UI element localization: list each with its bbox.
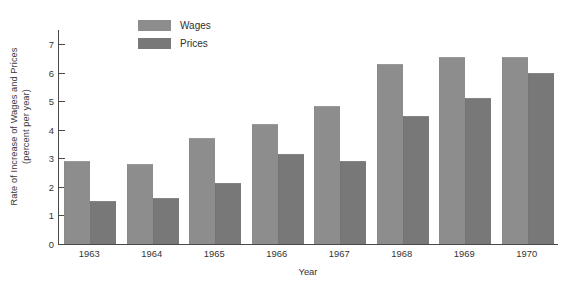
legend-label-prices: Prices bbox=[180, 38, 208, 49]
bar-wages-1965 bbox=[189, 138, 215, 244]
x-tick-label-1967: 1967 bbox=[308, 248, 371, 259]
bar-prices-1966 bbox=[278, 154, 304, 244]
y-tick-label-7: 7 bbox=[38, 39, 54, 50]
bar-prices-1968 bbox=[403, 116, 429, 244]
bar-wages-1963 bbox=[64, 161, 90, 244]
y-axis-tick-labels: 01234567 bbox=[36, 30, 54, 245]
x-tick-label-1964: 1964 bbox=[121, 248, 184, 259]
legend: Wages Prices bbox=[138, 18, 258, 54]
bar-wages-1970 bbox=[502, 57, 528, 244]
bar-wages-1967 bbox=[314, 106, 340, 244]
bar-group-1964 bbox=[127, 30, 179, 244]
x-tick-label-1968: 1968 bbox=[371, 248, 434, 259]
x-tick-label-1963: 1963 bbox=[58, 248, 121, 259]
bar-wages-1964 bbox=[127, 164, 153, 244]
bar-prices-1964 bbox=[153, 198, 179, 244]
bar-wages-1966 bbox=[252, 124, 278, 244]
bar-prices-1969 bbox=[465, 98, 491, 244]
bar-wages-1968 bbox=[377, 64, 403, 244]
bar-prices-1967 bbox=[340, 161, 366, 244]
y-tick-label-2: 2 bbox=[38, 181, 54, 192]
x-tick-label-1966: 1966 bbox=[246, 248, 309, 259]
bar-groups bbox=[59, 30, 558, 245]
legend-swatch-wages-icon bbox=[138, 20, 171, 31]
legend-item-wages: Wages bbox=[138, 18, 258, 33]
y-axis-title: Rate of Increase of Wages and Prices (pe… bbox=[0, 0, 40, 252]
bar-prices-1963 bbox=[90, 201, 116, 244]
bar-prices-1965 bbox=[215, 183, 241, 244]
bar-group-1970 bbox=[502, 30, 554, 244]
y-tick-label-5: 5 bbox=[38, 96, 54, 107]
x-axis-tick-labels: 19631964196519661967196819691970 bbox=[58, 248, 558, 262]
bar-wages-1969 bbox=[439, 57, 465, 244]
x-tick-label-1969: 1969 bbox=[433, 248, 496, 259]
y-tick-label-1: 1 bbox=[38, 210, 54, 221]
legend-label-wages: Wages bbox=[180, 20, 211, 31]
bar-group-1963 bbox=[64, 30, 116, 244]
bar-group-1969 bbox=[439, 30, 491, 244]
y-tick-label-0: 0 bbox=[38, 239, 54, 250]
y-axis-title-line-2: (percent per year) bbox=[20, 47, 32, 205]
plot-area: 01234567 bbox=[58, 30, 558, 245]
x-tick-label-1965: 1965 bbox=[183, 248, 246, 259]
bar-prices-1970 bbox=[528, 73, 554, 244]
legend-swatch-prices-icon bbox=[138, 38, 171, 49]
legend-item-prices: Prices bbox=[138, 36, 258, 51]
bar-chart-figure: Rate of Increase of Wages and Prices (pe… bbox=[0, 0, 568, 284]
x-axis-title: Year bbox=[58, 266, 558, 277]
bar-group-1968 bbox=[377, 30, 429, 244]
x-tick-label-1970: 1970 bbox=[496, 248, 559, 259]
y-tick-label-3: 3 bbox=[38, 153, 54, 164]
y-tick-label-6: 6 bbox=[38, 67, 54, 78]
y-tick-label-4: 4 bbox=[38, 124, 54, 135]
bar-group-1965 bbox=[189, 30, 241, 244]
bar-group-1967 bbox=[314, 30, 366, 244]
bar-group-1966 bbox=[252, 30, 304, 244]
y-axis-title-line-1: Rate of Increase of Wages and Prices bbox=[9, 47, 21, 205]
